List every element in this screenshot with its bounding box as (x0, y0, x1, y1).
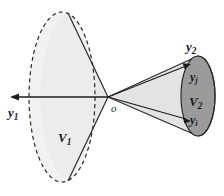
label-yj-subscript: j (195, 75, 197, 85)
label-y2-subscript: 2 (192, 46, 197, 56)
figure-container: y1 V1 o y2 yj V2 yi (0, 0, 224, 196)
label-yj: yj (190, 71, 198, 85)
axis-arrow-y1-head (10, 93, 19, 100)
label-yi-subscript: i (195, 118, 197, 128)
label-y1: y1 (8, 106, 18, 122)
label-yi: yi (190, 114, 198, 128)
label-V2-subscript: 2 (198, 101, 203, 111)
label-V1: V1 (58, 131, 71, 147)
label-origin: o (111, 103, 117, 114)
label-V2: V2 (189, 95, 202, 111)
label-V1-base: V (58, 130, 67, 145)
label-V2-base: V (189, 94, 198, 109)
label-origin-base: o (111, 102, 117, 114)
label-V1-subscript: 1 (67, 137, 72, 147)
label-y2: y2 (186, 40, 196, 56)
label-y1-subscript: 1 (14, 112, 19, 122)
